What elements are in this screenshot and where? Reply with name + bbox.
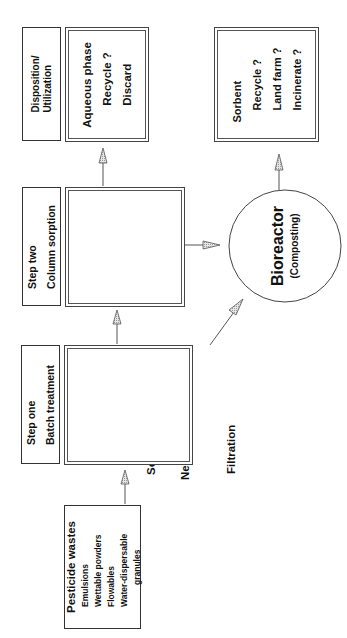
aqueous-line3: Discard [117,63,137,127]
sorbent-line4: Incinerate ? [287,48,307,122]
aqueous-line2: Recycle ? [97,52,117,128]
pesticide-item: granules [130,550,143,613]
step-one-label-line2: Batch treatment [41,365,60,445]
arrow-bioreactor-to-sorbent [275,154,283,190]
sorbent-line1: Sorbent [227,80,247,122]
step-one-label-box: Step one Batch treatment [21,345,60,464]
arrow-step-two-to-aqueous [99,148,107,186]
step-two-label-line2: Column sorption [42,205,61,289]
step-one-process-box: Demulsification + Sorption Filtration [64,345,193,465]
pesticide-title: Pesticide wastes [62,521,78,613]
arrow-pesticide-to-step-one [121,470,129,504]
disposition-label-line2: Utilization [42,65,54,113]
aqueous-phase-box: Aqueous phase Recycle ? Discard [65,27,149,142]
step-two-label-line1: Step two [23,245,42,289]
bioreactor-subtitle: (Composting) [288,214,302,279]
arrow-step-one-to-bioreactor [210,299,243,345]
pesticide-wastes-box: Pesticide wastes Emulsions Wettable powd… [64,505,141,629]
step-one-label-line1: Step one [22,400,41,444]
pesticide-item: Wettable powders [91,534,104,613]
bioreactor-title: Bioreactor [268,206,288,286]
step-two-filtration: Filtration [225,425,237,474]
arrow-step-one-to-step-two [113,310,121,344]
sorbent-line3: Land farm ? [267,47,287,122]
bioreactor-node: Bioreactor (Composting) [229,190,341,302]
step-two-label-box: Step two Column sorption [22,187,61,306]
aqueous-line1: Aqueous phase [77,42,97,128]
step-two-process-box: Sorption + Neutralization Filtration [65,187,185,307]
sorbent-box: Sorbent Recycle ? Land farm ? Incinerate… [214,27,319,142]
disposition-label-line1: Disposition/ [30,55,42,112]
pesticide-item: Flowables [104,566,117,613]
arrow-step-two-to-bioreactor [184,241,220,249]
sorbent-line2: Recycle ? [247,59,267,122]
disposition-label-box: Disposition/ Utilization [22,27,61,141]
pesticide-item: Emulsions [78,564,91,613]
pesticide-item: Water-dispersable [117,534,130,613]
